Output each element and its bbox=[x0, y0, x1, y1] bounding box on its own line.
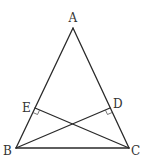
segment-ce bbox=[35, 108, 129, 148]
label-e: E bbox=[22, 101, 31, 115]
segment-ac bbox=[73, 28, 129, 148]
label-c: C bbox=[131, 144, 140, 158]
geometry-diagram: A B C D E bbox=[0, 0, 150, 168]
label-b: B bbox=[3, 144, 12, 158]
segment-ab bbox=[16, 28, 73, 148]
label-a: A bbox=[68, 11, 78, 25]
label-d: D bbox=[113, 97, 123, 111]
